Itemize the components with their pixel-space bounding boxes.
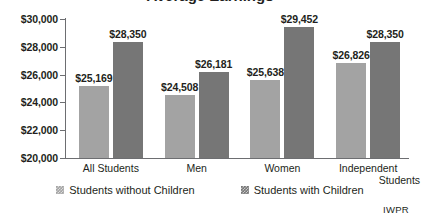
y-axis-tick-label: $20,000 xyxy=(0,152,58,164)
category-label-line1: Independent xyxy=(339,162,397,174)
bar-group: $26,826$28,350 xyxy=(336,19,400,158)
legend-label: Students without Children xyxy=(69,184,194,196)
chart-legend: Students without ChildrenStudents with C… xyxy=(0,184,420,196)
bar-value-label: $29,452 xyxy=(269,13,329,25)
category-label-line1: All Students xyxy=(83,162,139,174)
legend-item[interactable]: Students with Children xyxy=(241,184,364,196)
y-axis-tick-label: $22,000 xyxy=(0,124,58,136)
y-axis-tick-mark xyxy=(60,47,65,48)
y-axis-tick-mark xyxy=(60,102,65,103)
bar xyxy=(113,42,143,158)
y-axis-tick-mark xyxy=(60,158,65,159)
y-axis-tick-label: $26,000 xyxy=(0,69,58,81)
x-axis-line xyxy=(65,158,409,159)
bar xyxy=(250,80,280,158)
bar-group: $24,508$26,181 xyxy=(165,19,229,158)
y-axis-tick-label: $30,000 xyxy=(0,13,58,25)
y-axis-tick-label: $24,000 xyxy=(0,96,58,108)
bar xyxy=(370,42,400,158)
category-label-line1: Women xyxy=(264,162,300,174)
y-axis-tick-mark xyxy=(60,130,65,131)
y-axis-tick-label: $28,000 xyxy=(0,41,58,53)
bar-value-label: $28,350 xyxy=(98,28,158,40)
bar-value-label: $28,350 xyxy=(355,28,415,40)
legend-swatch-icon xyxy=(56,186,64,194)
bar-group: $25,638$29,452 xyxy=(250,19,314,158)
legend-swatch-icon xyxy=(241,186,249,194)
bar xyxy=(284,27,314,158)
y-axis-tick-mark xyxy=(60,19,65,20)
bar xyxy=(79,86,109,158)
bar xyxy=(199,72,229,158)
bar xyxy=(165,95,195,158)
attribution-label: IWPR xyxy=(383,204,409,215)
x-axis-category-label: IndependentStudents xyxy=(308,162,425,186)
legend-item[interactable]: Students without Children xyxy=(56,184,194,196)
bar xyxy=(336,63,366,158)
legend-label: Students with Children xyxy=(254,184,364,196)
category-label-line1: Men xyxy=(186,162,206,174)
plot-area: $25,169$28,350$24,508$26,181$25,638$29,4… xyxy=(66,19,409,158)
bar-group: $25,169$28,350 xyxy=(79,19,143,158)
